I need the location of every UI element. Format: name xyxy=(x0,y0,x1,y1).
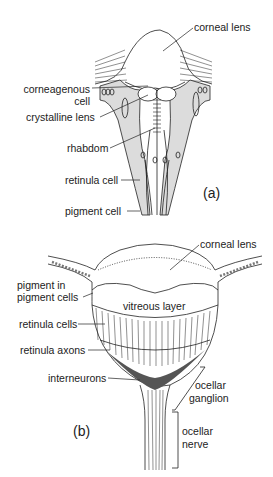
ocellus-diagram: corneal lens corneagenous cell crystalli… xyxy=(0,0,273,477)
leader-lines xyxy=(0,0,273,477)
